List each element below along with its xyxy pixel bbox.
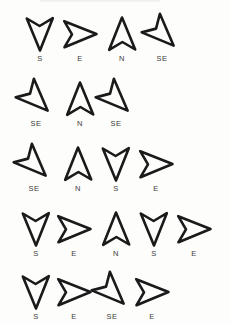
direction-label: E <box>134 184 178 194</box>
arrow-cell[interactable]: SE <box>90 270 134 324</box>
arrow-cell[interactable]: S <box>132 207 176 272</box>
direction-label: E <box>172 249 216 259</box>
arrow-cell[interactable]: S <box>94 142 138 207</box>
direction-label: SE <box>14 119 58 129</box>
arrow-cell[interactable]: SE <box>94 77 138 142</box>
direction-label: E <box>130 312 174 322</box>
direction-label: SE <box>90 312 134 322</box>
arrow-row: SENSE <box>0 207 230 272</box>
arrow-row: SESEE <box>0 270 230 324</box>
arrow-grid-sheet: SENSESENSESENSESENSESESEE <box>0 0 230 324</box>
arrow-row: SENSE <box>0 142 230 207</box>
navigation-arrow-icon <box>14 77 58 121</box>
cropped-header-line <box>40 0 160 3</box>
arrow-cell[interactable]: E <box>134 142 178 207</box>
navigation-arrow-icon <box>94 142 138 186</box>
arrow-cell[interactable]: E <box>172 207 216 272</box>
direction-label: S <box>132 249 176 259</box>
arrow-row: SENSE <box>0 77 230 142</box>
direction-label: N <box>100 54 144 64</box>
arrow-cell[interactable]: S <box>18 12 62 77</box>
direction-label: SE <box>140 54 184 64</box>
navigation-arrow-icon <box>130 270 174 314</box>
direction-label: SE <box>12 184 56 194</box>
direction-label: S <box>94 184 138 194</box>
navigation-arrow-icon <box>18 12 62 56</box>
arrow-cell[interactable]: SE <box>140 12 184 77</box>
direction-label: S <box>18 54 62 64</box>
arrow-cell[interactable]: E <box>130 270 174 324</box>
arrow-cell[interactable]: E <box>52 207 96 272</box>
direction-label: E <box>52 249 96 259</box>
navigation-arrow-icon <box>12 142 56 186</box>
arrow-cell[interactable]: SE <box>12 142 56 207</box>
navigation-arrow-icon <box>94 77 138 121</box>
navigation-arrow-icon <box>58 12 102 56</box>
arrow-row: SENSE <box>0 12 230 77</box>
arrow-cell[interactable]: SE <box>14 77 58 142</box>
direction-label: SE <box>94 119 138 129</box>
navigation-arrow-icon <box>90 270 134 314</box>
arrow-cell[interactable]: N <box>100 12 144 77</box>
navigation-arrow-icon <box>172 207 216 251</box>
direction-label: E <box>58 54 102 64</box>
arrow-cell[interactable]: E <box>58 12 102 77</box>
navigation-arrow-icon <box>140 12 184 56</box>
navigation-arrow-icon <box>134 142 178 186</box>
navigation-arrow-icon <box>132 207 176 251</box>
navigation-arrow-icon <box>52 207 96 251</box>
